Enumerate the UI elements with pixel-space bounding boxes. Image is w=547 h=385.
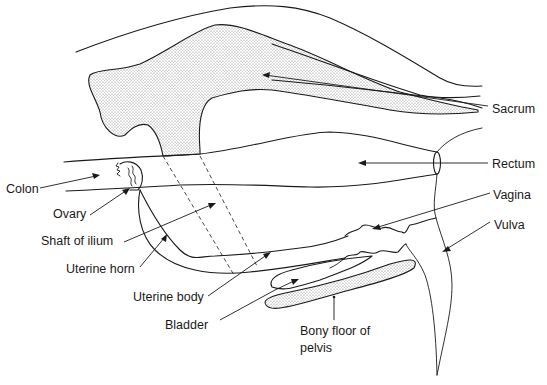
rectum-lower-wall (66, 174, 437, 191)
uterine-horn-upper (140, 190, 348, 258)
anatomy-diagram: Sacrum Rectum Colon Vagina Ovary Vulva S… (0, 0, 547, 385)
ovary-tube-2 (132, 166, 136, 184)
label-bony-floor-line1: Bony floor of (300, 324, 370, 338)
vagina-upper-wall (345, 218, 436, 236)
label-sacrum: Sacrum (492, 102, 535, 116)
diagram-drawing (0, 0, 547, 385)
vagina-lower-wall (345, 244, 406, 258)
perineum-curve (437, 128, 482, 152)
ilium-dashed-2 (200, 156, 258, 268)
label-vulva: Vulva (494, 218, 525, 232)
label-vagina: Vagina (493, 188, 531, 202)
label-rectum: Rectum (492, 157, 535, 171)
sacrum-shape (89, 25, 478, 156)
label-ovary: Ovary (53, 207, 86, 221)
label-bony-floor-line2: pelvis (300, 341, 332, 355)
label-colon: Colon (6, 182, 39, 196)
label-uterine-body: Uterine body (133, 290, 204, 304)
label-bladder: Bladder (165, 318, 208, 332)
vulva-outer-curve (434, 174, 452, 375)
ovary-tube-1 (128, 168, 132, 186)
ovary-fimbriae (116, 163, 120, 176)
uterine-horn-lower (139, 190, 345, 273)
label-shaft-of-ilium: Shaft of ilium (41, 234, 113, 248)
label-uterine-horn: Uterine horn (66, 262, 135, 276)
